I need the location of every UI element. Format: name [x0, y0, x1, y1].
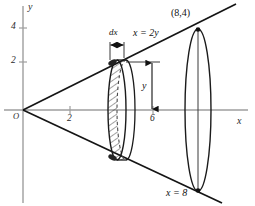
point-8-4-marker — [196, 27, 201, 32]
origin-label: O — [13, 112, 19, 121]
radius-dimension-label: y — [142, 81, 146, 91]
cone-generating-lines — [23, 4, 236, 203]
point-coordinate-label: (8,4) — [171, 8, 190, 18]
x-axis-label: x — [237, 116, 241, 126]
dx-thickness-label: dx — [109, 28, 118, 37]
dx-dimension — [110, 42, 124, 60]
y-axis-label: y — [28, 2, 32, 12]
y-tick-label-4: 4 — [11, 22, 16, 32]
x-tick-label-2: 2 — [67, 114, 72, 124]
x-tick-label-6: 6 — [150, 114, 155, 124]
plane-equation-label: x = 8 — [166, 188, 187, 198]
figure-canvas — [0, 0, 255, 206]
point-8-minus-4-marker — [196, 188, 201, 193]
line-equation-label: x = 2y — [133, 28, 159, 38]
line-x-equals-2y-upper — [23, 4, 236, 110]
y-tick-label-2: 2 — [11, 56, 16, 66]
volume-of-revolution-figure: y x O 4 2 2 6 dx x = 2y (8,4) x = 8 y — [0, 0, 255, 206]
